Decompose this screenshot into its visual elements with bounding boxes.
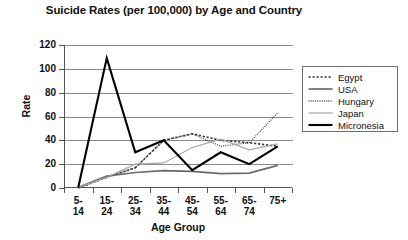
x-axis-title: Age Group xyxy=(64,221,292,233)
x-axis-tick-mark xyxy=(121,188,122,193)
legend-swatch-micronesia-icon xyxy=(308,120,333,130)
legend-swatch-usa-icon xyxy=(308,84,333,94)
y-axis-tick-label: 20 xyxy=(22,158,56,169)
x-tick-line1: 65- xyxy=(242,195,256,206)
legend-label: USA xyxy=(338,84,358,95)
x-tick-line2: 14 xyxy=(73,206,84,217)
chart-title: Suicide Rates (per 100,000) by Age and C… xyxy=(44,4,304,18)
legend-label: Micronesia xyxy=(338,120,384,131)
x-axis-tick-mark xyxy=(178,188,179,193)
legend-label: Hungary xyxy=(338,96,374,107)
y-axis-tick-label: 120 xyxy=(22,39,56,50)
series-line-micronesia xyxy=(78,58,278,187)
chart-container: Suicide Rates (per 100,000) by Age and C… xyxy=(0,0,408,240)
x-tick-line2: 24 xyxy=(101,206,112,217)
legend-item-japan[interactable]: Japan xyxy=(303,107,397,119)
legend-swatch-hungary-icon xyxy=(308,96,333,106)
x-axis-tick-mark xyxy=(64,188,65,193)
y-axis-tick-label: 100 xyxy=(22,63,56,74)
legend-label: Egypt xyxy=(338,72,362,83)
series-line-egypt xyxy=(78,134,278,188)
x-axis-tick-mark xyxy=(264,188,265,193)
x-tick-line1: 25- xyxy=(128,195,142,206)
x-axis-tick-mark xyxy=(150,188,151,193)
x-axis-tick-mark xyxy=(292,188,293,193)
x-tick-line1: 45- xyxy=(185,195,199,206)
legend-swatch-japan-icon xyxy=(308,108,333,118)
legend-item-egypt[interactable]: Egypt xyxy=(303,71,397,83)
x-tick-line1: 35- xyxy=(157,195,171,206)
x-tick-line2: 54 xyxy=(187,206,198,217)
x-tick-line1: 55- xyxy=(214,195,228,206)
legend-swatch-egypt-icon xyxy=(308,72,333,82)
x-axis-tick-mark xyxy=(207,188,208,193)
legend-item-hungary[interactable]: Hungary xyxy=(303,95,397,107)
legend-item-micronesia[interactable]: Micronesia xyxy=(303,119,397,131)
x-tick-line2: 64 xyxy=(215,206,226,217)
x-axis-tick-mark xyxy=(93,188,94,193)
y-axis-tick-label: 0 xyxy=(22,182,56,193)
x-tick-line2: 34 xyxy=(130,206,141,217)
x-tick-line2: 74 xyxy=(244,206,255,217)
x-axis-tick-label: 75+ xyxy=(261,195,295,206)
y-axis-title: Rate xyxy=(20,76,32,136)
x-tick-line1: 15- xyxy=(100,195,114,206)
legend-item-usa[interactable]: USA xyxy=(303,83,397,95)
legend-label: Japan xyxy=(338,108,364,119)
data-series-layer xyxy=(64,45,292,188)
x-tick-line1: 75+ xyxy=(269,195,286,206)
x-axis-tick-mark xyxy=(235,188,236,193)
x-tick-line1: 5- xyxy=(74,195,83,206)
x-tick-line2: 44 xyxy=(158,206,169,217)
chart-legend: EgyptUSAHungaryJapanMicronesia xyxy=(302,66,398,132)
